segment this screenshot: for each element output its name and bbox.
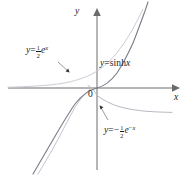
- label-neg-exponent: −x: [129, 124, 136, 131]
- y-axis-arrowhead: [93, 8, 101, 16]
- math-figure: y=12ex y=sinhx y=−12e−x y x 0: [0, 0, 186, 175]
- fraction-numerator: 1: [36, 45, 40, 51]
- y-axis-label: y: [75, 7, 79, 17]
- label-half-exp-equals: =: [30, 45, 35, 55]
- label-neg-exponent-var: x: [133, 124, 136, 131]
- fraction-denominator-neg: 2: [120, 133, 124, 139]
- leader-half-exp: [58, 62, 70, 73]
- label-sinh-variable: x: [126, 58, 130, 68]
- fraction-one-half: 12: [36, 45, 40, 59]
- label-sinh-function: sinh: [110, 58, 126, 68]
- x-axis-label: x: [174, 93, 178, 103]
- leader-neg-half-exp: [100, 105, 108, 120]
- label-sinh: y=sinhx: [100, 59, 130, 69]
- origin-label: 0: [88, 90, 93, 100]
- fraction-denominator: 2: [36, 53, 40, 59]
- x-axis-arrowhead: [172, 84, 180, 92]
- fraction-one-half-neg: 12: [120, 125, 124, 139]
- fraction-numerator-neg: 1: [120, 125, 124, 131]
- label-half-exponential: y=12ex: [26, 44, 48, 58]
- plot-canvas: [0, 0, 186, 175]
- label-negative-half-exponential: y=−12e−x: [104, 124, 135, 138]
- curve-half-exp-lower-tail: [38, 88, 92, 174]
- label-neg-minus: −: [114, 125, 119, 135]
- curve-neg-half-exp-right: [97, 96, 172, 113]
- label-half-exp-exponent: x: [45, 44, 48, 51]
